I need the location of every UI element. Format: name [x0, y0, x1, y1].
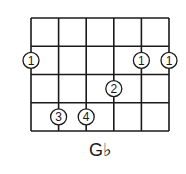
chord-name-label: G♭	[0, 140, 186, 160]
finger-marker: 2	[106, 81, 122, 97]
finger-number: 3	[55, 110, 62, 124]
finger-marker: 1	[161, 52, 177, 68]
finger-marker: 1	[23, 52, 39, 68]
finger-marker: 4	[78, 109, 94, 125]
finger-marker: 1	[133, 52, 149, 68]
finger-number: 1	[166, 54, 173, 68]
finger-number: 1	[28, 54, 35, 68]
finger-number: 2	[110, 82, 117, 96]
finger-number: 4	[83, 110, 90, 124]
finger-marker: 3	[51, 109, 67, 125]
finger-number: 1	[138, 54, 145, 68]
finger-markers: 111234	[23, 52, 177, 125]
